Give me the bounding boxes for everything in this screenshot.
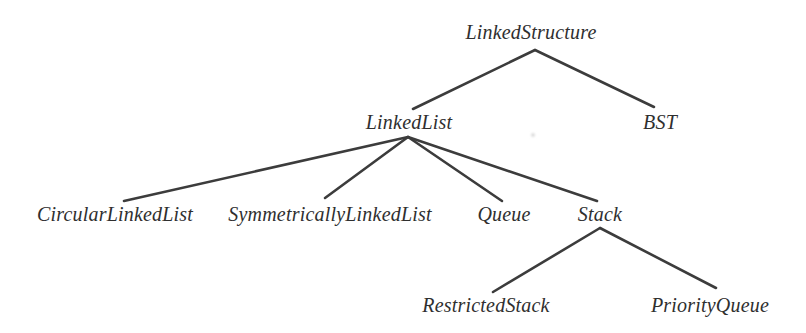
tree-edge-linkedlist-queue <box>408 137 502 201</box>
tree-node-stack: Stack <box>578 204 622 224</box>
tree-node-circularlinkedlist: CircularLinkedList <box>37 204 193 224</box>
scan-artifact-speck <box>531 133 535 137</box>
tree-node-priorityqueue: PriorityQueue <box>651 295 769 315</box>
tree-node-queue: Queue <box>477 204 530 224</box>
tree-node-symmetricallylinkedlist: SymmetricallyLinkedList <box>228 204 431 224</box>
tree-edge-linkedstructure-bst <box>535 50 654 107</box>
tree-edge-linkedstructure-linkedlist <box>413 50 535 109</box>
tree-diagram: LinkedStructureLinkedListBSTCircularLink… <box>0 0 806 333</box>
tree-node-restrictedstack: RestrictedStack <box>422 295 549 315</box>
tree-node-linkedstructure: LinkedStructure <box>465 22 596 42</box>
tree-edge-stack-priorityqueue <box>600 228 716 288</box>
tree-edge-linkedlist-stack <box>408 137 597 201</box>
tree-edge-layer <box>0 0 806 333</box>
tree-node-linkedlist: LinkedList <box>366 112 452 132</box>
tree-node-bst: BST <box>643 112 677 132</box>
tree-edge-stack-restrictedstack <box>493 228 600 292</box>
